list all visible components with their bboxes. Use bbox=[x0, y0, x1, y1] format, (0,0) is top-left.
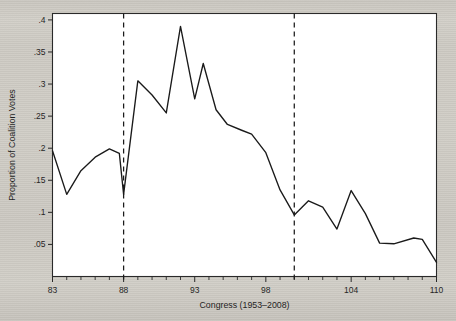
y-tick-label-.1: .1 bbox=[38, 207, 45, 217]
x-tick-label-98: 98 bbox=[261, 285, 271, 295]
x-tick-label-104: 104 bbox=[344, 285, 358, 295]
x-tick-label-83: 83 bbox=[48, 285, 58, 295]
coalition-votes-line-chart: .05.1.15.2.25.3.35.4 83889398104110 Cong… bbox=[0, 0, 456, 321]
y-tick-label-.15: .15 bbox=[34, 175, 46, 185]
y-tick-label-.3: .3 bbox=[38, 79, 45, 89]
x-tick-label-88: 88 bbox=[119, 285, 129, 295]
y-tick-label-.25: .25 bbox=[34, 111, 46, 121]
y-axis-ticks bbox=[48, 20, 53, 245]
y-tick-label-.2: .2 bbox=[38, 143, 45, 153]
x-axis-tick-labels: 83889398104110 bbox=[48, 285, 444, 295]
y-tick-label-.4: .4 bbox=[38, 15, 45, 25]
x-tick-label-110: 110 bbox=[430, 285, 444, 295]
x-axis-title: Congress (1953–2008) bbox=[200, 300, 290, 310]
x-axis-ticks bbox=[53, 277, 437, 283]
y-tick-label-.35: .35 bbox=[34, 47, 46, 57]
plot-area-frame bbox=[53, 14, 437, 277]
y-axis-tick-labels: .05.1.15.2.25.3.35.4 bbox=[34, 15, 46, 250]
y-axis-title: Proportion of Coalition Votes bbox=[7, 89, 17, 201]
y-tick-label-.05: .05 bbox=[34, 239, 46, 249]
chart-figure: .05.1.15.2.25.3.35.4 83889398104110 Cong… bbox=[0, 0, 456, 321]
x-tick-label-93: 93 bbox=[190, 285, 200, 295]
